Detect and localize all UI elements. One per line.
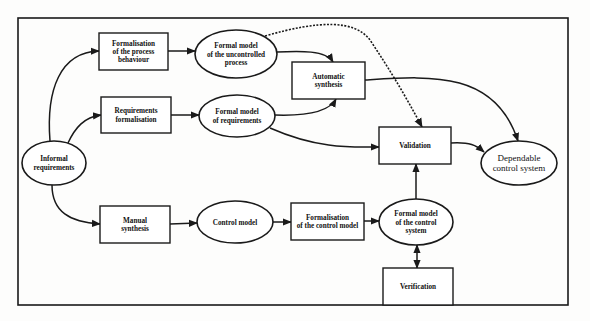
edge-uncontrolled-model-to-automatic-synthesis — [277, 51, 333, 62]
node-formalisation-process-behaviour: Formalisationof the processbehaviour — [99, 33, 168, 70]
node-validation: Validation — [379, 127, 451, 164]
node-label-line: process — [225, 59, 248, 67]
node-label-line: behaviour — [118, 56, 150, 64]
node-label-line: Formal model — [214, 42, 257, 50]
node-label-line: of the control model — [297, 222, 359, 230]
node-label-line: Automatic — [312, 73, 345, 81]
edge-validation-to-dependable-system — [451, 143, 484, 152]
node-requirements-formalisation: Requirementsformalisation — [101, 97, 171, 133]
node-dependable-control-system: Dependablecontrol system — [481, 141, 557, 185]
node-label-line: system — [406, 227, 427, 235]
node-label-line: Requirements — [115, 107, 158, 115]
node-label-line: Dependable — [498, 153, 541, 163]
node-label-line: Formalisation — [306, 214, 349, 222]
node-control-model: Control model — [197, 201, 273, 243]
node-informal-requirements: Informalrequirements — [22, 141, 86, 185]
node-label-line: synthesis — [121, 225, 149, 233]
edge-informal-to-process-behaviour — [49, 51, 99, 141]
node-label-line: synthesis — [315, 81, 343, 89]
design-process-diagram: Informalrequirements Formalisationof the… — [0, 0, 590, 321]
node-label-line: of requirements — [213, 117, 262, 125]
node-automatic-synthesis: Automaticsynthesis — [292, 62, 365, 99]
node-label-line: Informal — [40, 155, 68, 163]
node-label-line: Verification — [400, 283, 436, 291]
node-label-line: control system — [493, 163, 546, 173]
edge-informal-to-requirements-formalisation — [68, 115, 101, 143]
node-label-line: Control model — [213, 219, 257, 227]
node-label-line: formalisation — [115, 116, 156, 124]
node-label-line: of the process — [113, 48, 155, 56]
node-label-line: Formal model — [215, 108, 258, 116]
node-formal-model-requirements: Formal modelof requirements — [199, 95, 275, 137]
node-label-line: of the control — [396, 219, 437, 227]
node-formal-model-control-system: Formal modelof the controlsystem — [379, 199, 453, 245]
edge-req-model-to-automatic-synthesis — [275, 99, 336, 115]
node-manual-synthesis: Manualsynthesis — [100, 206, 170, 243]
node-verification: Verification — [383, 268, 453, 305]
node-label-line: Manual — [123, 217, 147, 225]
node-formalisation-control-model: Formalisationof the control model — [291, 203, 364, 240]
node-label-line: Validation — [399, 142, 431, 150]
node-label-line: Formal model — [394, 210, 437, 218]
node-label-line: requirements — [34, 164, 75, 172]
edge-manual-synthesis-to-control-model — [170, 223, 197, 224]
node-label-line: Formalisation — [112, 40, 155, 48]
node-label-line: of the uncontrolled — [207, 51, 265, 59]
edge-req-model-to-validation — [270, 128, 379, 147]
nodes-layer: Informalrequirements Formalisationof the… — [22, 30, 557, 305]
node-formal-model-uncontrolled-process: Formal modelof the uncontrolledprocess — [195, 30, 277, 78]
edge-informal-to-manual-synthesis — [52, 185, 100, 224]
